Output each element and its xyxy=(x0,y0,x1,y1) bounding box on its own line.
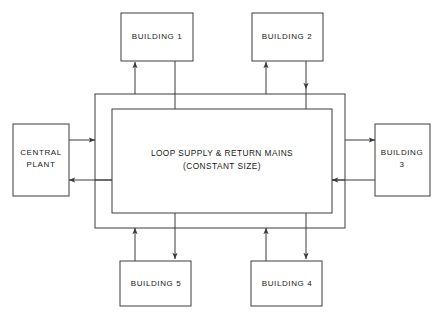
node-building-1[interactable]: BUILDING 1 xyxy=(121,13,193,61)
node-building-5[interactable]: BUILDING 5 xyxy=(120,261,191,306)
loop-main-label-line1: LOOP SUPPLY & RETURN MAINS xyxy=(151,148,293,158)
loop-main-label-line2: (CONSTANT SIZE) xyxy=(183,161,261,171)
diagram-canvas: BUILDING 1 BUILDING 2 CENTRAL PLANT BUIL… xyxy=(0,0,441,323)
building-3-label-line1: BUILDING xyxy=(381,148,424,157)
building-1-label: BUILDING 1 xyxy=(132,32,182,41)
building-4-label: BUILDING 4 xyxy=(262,279,312,288)
central-plant-label-line2: PLANT xyxy=(27,160,56,169)
node-building-2[interactable]: BUILDING 2 xyxy=(252,13,323,61)
building-5-label: BUILDING 5 xyxy=(131,279,181,288)
building-2-label: BUILDING 2 xyxy=(262,32,312,41)
loop-piping-diagram: BUILDING 1 BUILDING 2 CENTRAL PLANT BUIL… xyxy=(0,0,441,323)
node-building-3[interactable]: BUILDING 3 xyxy=(375,124,430,196)
node-building-4[interactable]: BUILDING 4 xyxy=(251,261,322,306)
central-plant-label-line1: CENTRAL xyxy=(20,148,62,157)
building-3-label-line2: 3 xyxy=(399,160,404,169)
node-central-plant[interactable]: CENTRAL PLANT xyxy=(13,124,69,196)
